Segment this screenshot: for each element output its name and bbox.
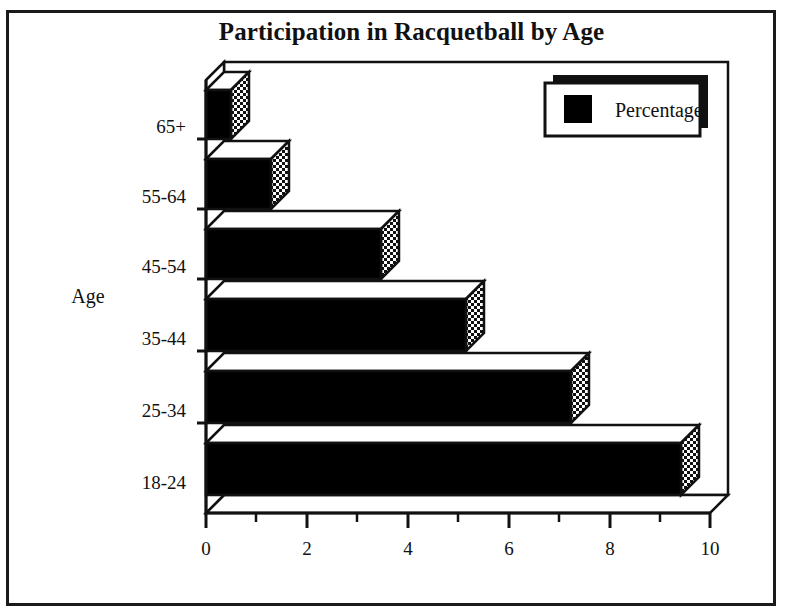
legend: Percentage <box>545 75 708 136</box>
x-tick-label-8: 8 <box>605 538 615 559</box>
bar-18-24 <box>206 425 699 495</box>
x-tick-label-10: 10 <box>701 538 720 559</box>
bar-25-34 <box>206 353 589 423</box>
y-tick-label-45-54: 45-54 <box>142 256 187 277</box>
y-tick-label-55-64: 55-64 <box>142 186 187 207</box>
bar-65-plus <box>206 72 249 139</box>
plot-floor <box>206 495 728 513</box>
y-tick-label-65-plus: 65+ <box>156 116 186 137</box>
plot-area: 65+ 55-64 45-54 35-44 25-34 18-24 Age 0 … <box>0 0 795 615</box>
x-tick-label-2: 2 <box>302 538 312 559</box>
y-tick-label-18-24: 18-24 <box>142 472 187 493</box>
chart-page: Participation in Racquetball by Age <box>0 0 795 615</box>
legend-swatch-percentage <box>564 95 592 123</box>
y-axis-title: Age <box>71 285 104 308</box>
y-tick-label-25-34: 25-34 <box>142 400 187 421</box>
legend-label-percentage: Percentage <box>615 99 703 122</box>
bar-45-54 <box>206 211 399 279</box>
bar-55-64 <box>206 141 289 209</box>
x-tick-label-4: 4 <box>403 538 413 559</box>
y-tick-label-35-44: 35-44 <box>142 328 187 349</box>
bar-35-44 <box>206 281 484 351</box>
x-tick-label-6: 6 <box>504 538 514 559</box>
x-tick-label-0: 0 <box>201 538 211 559</box>
